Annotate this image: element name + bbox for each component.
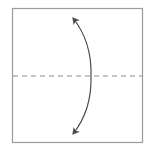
origami-diagram bbox=[0, 0, 157, 154]
